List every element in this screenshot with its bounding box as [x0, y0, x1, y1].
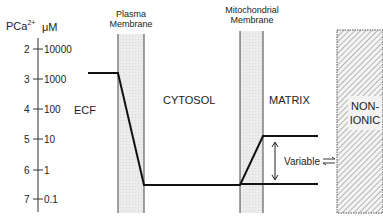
equilibrium-arrows-icon	[323, 157, 335, 165]
tick-label-pca: 2	[24, 44, 30, 55]
tick-label-um: 1	[44, 165, 50, 176]
plasma-membrane-label: Membrane	[109, 19, 152, 29]
tick-label-um: 10	[44, 134, 56, 145]
tick-label-um: 0.1	[44, 194, 58, 205]
matrix-label: MATRIX	[269, 94, 310, 106]
axis-label-um: μM	[42, 21, 58, 33]
calcium-gradient-diagram: PCa2+ μM 2 10000 3 1000 4 100 5 10 6 1	[0, 0, 383, 216]
axis-label-pca: PCa2+	[6, 19, 35, 32]
y-axis: PCa2+ μM 2 10000 3 1000 4 100 5 10 6 1	[6, 19, 72, 212]
ecf-label: ECF	[74, 104, 96, 116]
nonionic-label: NON-	[351, 100, 379, 112]
tick-label-um: 100	[44, 104, 61, 115]
tick-label-pca: 6	[24, 165, 30, 176]
mitochondrial-membrane: Mitochondrial Membrane	[225, 5, 279, 213]
tick-5: 5 10	[24, 134, 56, 145]
tick-label-pca: 4	[24, 104, 30, 115]
tick-label-um: 10000	[44, 44, 72, 55]
tick-label-pca: 3	[24, 74, 30, 85]
tick-7: 7 0.1	[24, 194, 58, 205]
plasma-membrane-label: Plasma	[116, 9, 146, 19]
nonionic-compartment: NON- IONIC	[337, 30, 383, 213]
cytosol-label: CYTOSOL	[163, 94, 215, 106]
tick-4: 4 100	[24, 104, 61, 115]
nonionic-label: IONIC	[350, 114, 381, 126]
plasma-membrane: Plasma Membrane	[109, 9, 152, 213]
tick-label-um: 1000	[44, 74, 67, 85]
mito-membrane-label: Mitochondrial	[225, 5, 279, 15]
tick-label-pca: 5	[24, 134, 30, 145]
tick-2: 2 10000	[24, 44, 72, 55]
mito-membrane-label: Membrane	[230, 15, 273, 25]
variable-label: Variable	[284, 156, 320, 167]
tick-3: 3 1000	[24, 74, 67, 85]
tick-6: 6 1	[24, 165, 50, 176]
tick-label-pca: 7	[24, 194, 30, 205]
variable-range-arrow	[272, 142, 278, 180]
